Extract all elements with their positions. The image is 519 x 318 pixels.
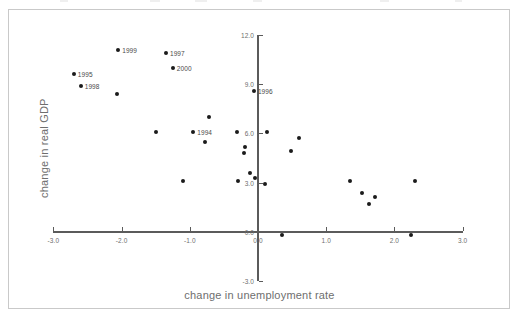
data-point bbox=[280, 233, 284, 237]
y-tick-mark bbox=[259, 84, 263, 85]
data-point bbox=[360, 191, 364, 195]
data-point-label: 2000 bbox=[177, 64, 192, 71]
y-tick-mark bbox=[259, 133, 263, 134]
data-point bbox=[263, 182, 267, 186]
y-axis-line bbox=[257, 35, 259, 282]
x-tick-label: 0.0 bbox=[253, 237, 262, 244]
y-tick-label: 12.0 bbox=[234, 31, 254, 38]
data-point bbox=[171, 66, 175, 70]
data-point bbox=[253, 176, 257, 180]
x-tick-label: -3.0 bbox=[48, 237, 60, 244]
data-point bbox=[164, 51, 168, 55]
y-tick-mark bbox=[259, 232, 263, 233]
data-point bbox=[154, 130, 158, 134]
y-tick-mark bbox=[259, 281, 263, 282]
data-point-label: 1999 bbox=[122, 46, 137, 53]
x-tick-mark bbox=[394, 227, 395, 231]
y-tick-label: -3.0 bbox=[234, 278, 254, 285]
plot-area: -3.0-2.0-1.00.01.02.03.0 12.09.06.03.00.… bbox=[0, 0, 519, 318]
data-point bbox=[297, 136, 301, 140]
data-point bbox=[243, 145, 247, 149]
data-point-label: 1994 bbox=[197, 128, 212, 135]
data-point bbox=[116, 48, 120, 52]
data-point bbox=[373, 195, 377, 199]
x-tick-mark bbox=[258, 227, 259, 231]
data-point bbox=[409, 233, 413, 237]
x-tick-label: 3.0 bbox=[458, 237, 467, 244]
x-tick-mark bbox=[190, 227, 191, 231]
x-tick-mark bbox=[53, 227, 54, 231]
data-point-label: 1995 bbox=[78, 71, 93, 78]
data-point bbox=[348, 179, 352, 183]
y-tick-mark bbox=[259, 35, 263, 36]
data-point-label: 1996 bbox=[258, 87, 273, 94]
data-point bbox=[289, 149, 293, 153]
scatter-plot-figure: -3.0-2.0-1.00.01.02.03.0 12.09.06.03.00.… bbox=[0, 0, 519, 318]
x-tick-label: 2.0 bbox=[390, 237, 399, 244]
data-point bbox=[72, 72, 76, 76]
data-point bbox=[236, 179, 240, 183]
y-tick-label: 9.0 bbox=[234, 81, 254, 88]
y-tick-label: 0.0 bbox=[234, 229, 254, 236]
data-point bbox=[235, 130, 239, 134]
data-point bbox=[248, 171, 252, 175]
data-point bbox=[181, 179, 185, 183]
data-point bbox=[413, 179, 417, 183]
x-tick-mark bbox=[122, 227, 123, 231]
x-tick-label: -1.0 bbox=[184, 237, 196, 244]
data-point bbox=[367, 202, 371, 206]
data-point bbox=[115, 92, 119, 96]
data-point bbox=[79, 84, 83, 88]
data-point bbox=[207, 115, 211, 119]
data-point bbox=[191, 130, 195, 134]
y-axis-title: change in real GDP bbox=[38, 98, 50, 198]
x-tick-label: -2.0 bbox=[116, 237, 128, 244]
data-point-label: 1998 bbox=[85, 82, 100, 89]
data-point bbox=[265, 130, 269, 134]
x-tick-mark bbox=[463, 227, 464, 231]
x-tick-label: 1.0 bbox=[322, 237, 331, 244]
x-tick-mark bbox=[326, 227, 327, 231]
data-point bbox=[242, 151, 246, 155]
x-axis-title: change in unemployment rate bbox=[0, 289, 519, 301]
data-point bbox=[252, 89, 256, 93]
data-point-label: 1997 bbox=[170, 49, 185, 56]
data-point bbox=[203, 140, 207, 144]
